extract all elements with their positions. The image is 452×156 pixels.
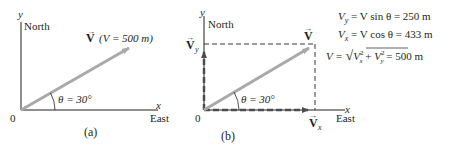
y-axis-label: y <box>17 8 23 20</box>
origin-label: 0 <box>10 112 16 124</box>
equation-vx: Vx = V cos θ = 433 m <box>338 28 433 43</box>
caption-a: (a) <box>84 125 97 139</box>
north-label: North <box>24 20 50 32</box>
caption-b: (b) <box>221 129 235 143</box>
vx-subscript: x <box>317 123 322 132</box>
origin-label: 0 <box>195 112 201 124</box>
x-axis-label: x <box>155 99 161 111</box>
angle-arc <box>234 92 239 110</box>
angle-label: θ = 30° <box>58 93 92 105</box>
vy-symbol: V <box>186 38 195 52</box>
vector-components-diagram: y North x East 0 V → (V = 500 m) θ = 30°… <box>0 0 452 156</box>
equation-vy: Vy = V sin θ = 250 m <box>338 10 431 25</box>
north-label: North <box>208 18 234 30</box>
angle-arc <box>51 93 56 110</box>
east-label: East <box>336 112 355 124</box>
panel-b: y North x East 0 → V → V y → V x θ = 30°… <box>186 6 355 143</box>
vy-subscript: y <box>194 45 199 54</box>
vector-symbol: V <box>304 29 313 43</box>
east-label: East <box>150 112 169 124</box>
vx-symbol: V <box>309 116 318 130</box>
equation-magnitude: V = √V2x + V2y = 500 m <box>326 48 424 65</box>
angle-label: θ = 30° <box>241 93 275 105</box>
vector-arrow-accent: → <box>87 27 95 36</box>
vector-magnitude: (V = 500 m) <box>99 32 153 45</box>
y-axis-label: y <box>199 6 205 18</box>
panel-a: y North x East 0 V → (V = 500 m) θ = 30°… <box>10 8 169 139</box>
equations: Vy = V sin θ = 250 m Vx = V cos θ = 433 … <box>326 10 433 65</box>
